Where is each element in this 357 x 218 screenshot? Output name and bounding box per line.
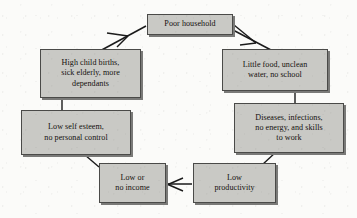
node-low-income[interactable]: Low or no income — [99, 163, 166, 203]
node-low-self-esteem[interactable]: Low self esteem, no personal control — [21, 110, 131, 155]
node-poor-household[interactable]: Poor household — [147, 14, 233, 35]
node-diseases-line-3: to work — [255, 133, 322, 143]
node-poor-household-line-1: Poor household — [150, 19, 230, 29]
node-high-child-births-line-2: sick elderly, more — [61, 68, 120, 78]
node-diseases[interactable]: Diseases, infections, no energy, and ski… — [234, 103, 344, 153]
node-high-child-births-line-1: High child births, — [61, 58, 120, 68]
node-high-child-births-line-3: dependants — [61, 79, 120, 89]
node-low-self-esteem-line-1: Low self esteem, — [44, 122, 107, 132]
node-low-productivity-line-2: productivity — [214, 183, 254, 193]
node-low-income-line-1: Low or — [115, 173, 149, 183]
connector-low-income-to-low-self-esteem — [85, 155, 99, 167]
node-diseases-line-2: no energy, and skills — [255, 123, 322, 133]
connector-poor-household-to-little-food — [233, 25, 271, 50]
node-little-food-line-2: water, no school — [243, 70, 308, 80]
node-high-child-births[interactable]: High child births, sick elderly, more de… — [40, 49, 141, 98]
node-low-income-line-2: no income — [115, 183, 149, 193]
node-low-productivity-line-1: Low — [214, 173, 254, 183]
node-little-food-line-1: Little food, unclean — [243, 60, 308, 70]
node-diseases-line-1: Diseases, infections, — [255, 113, 322, 123]
connector-low-productivity-to-low-income — [167, 178, 192, 191]
diagram-canvas: Poor household Little food, unclean wate… — [0, 0, 357, 218]
node-low-productivity[interactable]: Low productivity — [193, 163, 276, 203]
node-low-self-esteem-line-2: no personal control — [44, 133, 107, 143]
node-little-food[interactable]: Little food, unclean water, no school — [222, 49, 328, 91]
